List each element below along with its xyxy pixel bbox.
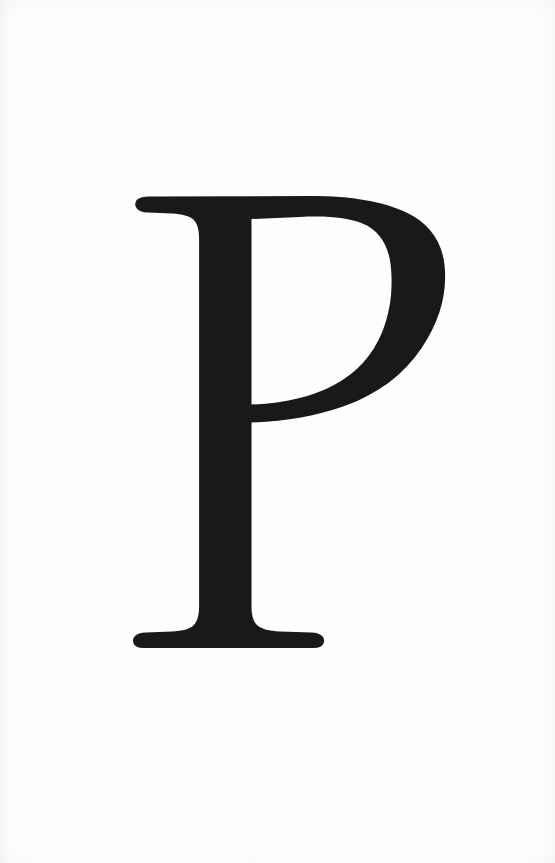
page-canvas: [0, 0, 555, 863]
letter-p-outline: [133, 196, 445, 648]
letter-p-glyph: [0, 0, 555, 863]
glyph-stage: [0, 0, 555, 863]
